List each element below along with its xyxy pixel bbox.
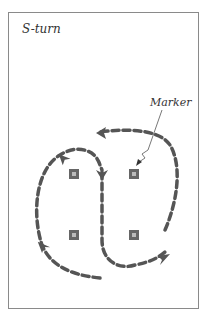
markers <box>69 169 139 240</box>
path-right-bottom <box>102 172 165 266</box>
leader-arrowhead <box>136 159 142 166</box>
arrowhead-bottom-left <box>36 238 51 253</box>
path-left-loop <box>37 149 102 278</box>
path-top-right-arc <box>100 130 177 230</box>
s-turn-path-diagram <box>0 0 205 321</box>
